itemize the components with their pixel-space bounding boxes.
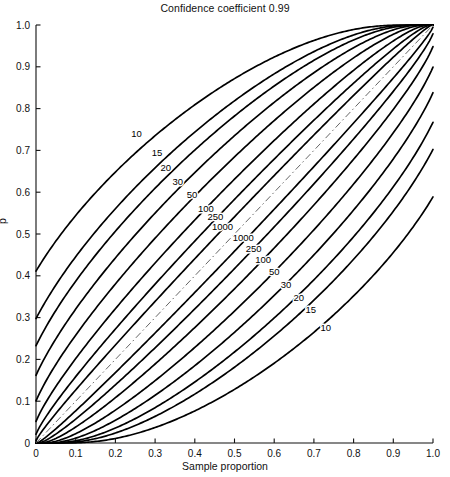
x-tick-label: 0 (33, 448, 39, 459)
curve-label-upper-n1000: 1000 (212, 221, 233, 232)
curve-label-upper-n50: 50 (187, 189, 198, 200)
curve-label-upper-n30: 30 (172, 176, 183, 187)
belt-curve-upper-n250 (36, 25, 433, 434)
curve-labels: 1010151520203030505010010025025010001000… (131, 128, 331, 333)
y-tick-label: 0.4 (16, 270, 30, 281)
curve-label-upper-n20: 20 (161, 162, 172, 173)
y-tick-label: 0.5 (16, 229, 30, 240)
y-tick-label: 0.3 (16, 312, 30, 323)
confidence-belt-chart: Confidence coefficient 0.99 00.10.20.30.… (0, 0, 450, 477)
y-tick-label: 0.2 (16, 354, 30, 365)
curve-label-lower-n100: 100 (255, 254, 271, 265)
x-axis-label: Sample proportion (0, 460, 450, 472)
curve-label-lower-n50: 50 (269, 266, 280, 277)
belt-curve-lower-n100 (36, 47, 433, 443)
curve-label-upper-n15: 15 (152, 147, 163, 158)
y-tick-label: 0.7 (16, 145, 30, 156)
x-tick-label: 0.3 (148, 448, 162, 459)
x-tick-label: 0.9 (386, 448, 400, 459)
y-tick-label: 0.1 (16, 396, 30, 407)
x-tick-label: 0.7 (307, 448, 321, 459)
y-tick-label: 1.0 (16, 20, 30, 31)
x-tick-label: 0.8 (347, 448, 361, 459)
curve-label-lower-n10: 10 (321, 322, 332, 333)
y-tick-label: 0.9 (16, 61, 30, 72)
x-tick-label: 0.1 (69, 448, 83, 459)
y-tick-label: 0 (24, 438, 30, 449)
curve-label-upper-n10: 10 (131, 128, 142, 139)
belt-curve-upper-n100 (36, 25, 433, 421)
y-tick-label: 0.8 (16, 103, 30, 114)
x-tick-label: 0.5 (228, 448, 242, 459)
curve-label-lower-n30: 30 (281, 279, 292, 290)
x-tick-label: 0.2 (108, 448, 122, 459)
curve-label-lower-n250: 250 (246, 243, 262, 254)
y-tick-label: 0.6 (16, 187, 30, 198)
x-tick-label: 0.6 (267, 448, 281, 459)
x-tick-label: 1.0 (426, 448, 440, 459)
curve-label-lower-n20: 20 (294, 292, 305, 303)
y-axis-label: p (0, 218, 8, 224)
curve-label-lower-n15: 15 (305, 304, 316, 315)
curve-label-lower-n1000: 1000 (233, 232, 254, 243)
chart-title: Confidence coefficient 0.99 (0, 2, 450, 14)
plot-area: 00.10.20.30.40.50.60.70.80.91.000.10.20.… (0, 0, 450, 477)
x-tick-label: 0.4 (188, 448, 202, 459)
